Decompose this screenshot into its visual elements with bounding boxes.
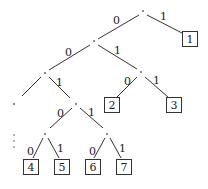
label-n01-0: 0 <box>124 75 131 88</box>
label-n00-1: 1 <box>56 76 63 89</box>
label-n001-0: 0 <box>57 107 64 120</box>
edge-n00-0 <box>22 77 41 96</box>
leaf-label: 3 <box>171 99 178 112</box>
node-001 <box>75 103 77 105</box>
leaf-2: 2 <box>105 98 120 113</box>
leaf-label: 2 <box>109 99 116 112</box>
leaf-label: 7 <box>121 161 128 174</box>
label-root-1: 1 <box>160 10 167 23</box>
leaf-label: 1 <box>187 33 194 46</box>
continuation-ellipsis <box>13 134 15 148</box>
tree-nodes <box>13 10 144 135</box>
label-n0010-0: 0 <box>27 145 34 158</box>
edge-labels: 0 1 0 1 1 0 1 0 1 0 1 0 1 <box>27 10 167 158</box>
label-n0011-1: 1 <box>119 142 126 155</box>
label-root-0: 0 <box>113 14 120 27</box>
node-0011 <box>106 133 108 135</box>
node-root <box>142 10 144 12</box>
node-0010 <box>44 133 46 135</box>
label-n001-1: 1 <box>88 106 95 119</box>
node-00 <box>44 72 46 74</box>
label-n01-1: 1 <box>153 74 160 87</box>
label-n0-1: 1 <box>114 44 121 57</box>
node-0 <box>93 40 95 42</box>
leaf-6: 6 <box>86 160 101 175</box>
leaf-4: 4 <box>24 160 39 175</box>
leaf-label: 5 <box>59 161 66 174</box>
node-000 <box>13 103 15 105</box>
leaf-1: 1 <box>183 32 198 47</box>
label-n0-0: 0 <box>65 46 72 59</box>
code-tree-diagram: 0 1 0 1 1 0 1 0 1 0 1 0 1 1 2 3 4 5 6 7 <box>0 0 208 189</box>
edge-n0010-0 <box>33 138 43 158</box>
leaf-7: 7 <box>117 160 132 175</box>
leaf-3: 3 <box>167 98 182 113</box>
label-n0011-0: 0 <box>89 145 96 158</box>
leaf-5: 5 <box>55 160 70 175</box>
node-01 <box>140 71 142 73</box>
leaf-label: 6 <box>90 161 97 174</box>
label-n0010-1: 1 <box>57 142 64 155</box>
leaf-label: 4 <box>28 161 35 174</box>
